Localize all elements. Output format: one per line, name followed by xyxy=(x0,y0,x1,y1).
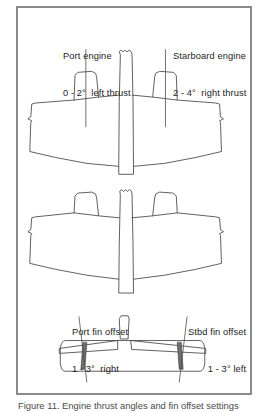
port-engine-nacelle-middle xyxy=(74,192,99,216)
callout-port-engine: Port engine 0 - 2° left thrust xyxy=(63,25,131,124)
callout-stbd-fin-title: Stbd fin offset xyxy=(188,326,246,338)
starboard-wing-outline-middle xyxy=(132,213,223,279)
callout-stbd-fin: Stbd fin offset 1 - 3° left xyxy=(188,301,246,400)
callout-starboard-engine-value: 2 - 4° right thrust xyxy=(173,87,246,99)
figure-frame: Port engine 0 - 2° left thrust Starboard… xyxy=(16,6,252,395)
callout-starboard-engine: Starboard engine 2 - 4° right thrust xyxy=(173,25,246,124)
callout-starboard-engine-title: Starboard engine xyxy=(173,50,246,62)
middle-planform-view xyxy=(28,190,224,293)
port-wing-outline-middle xyxy=(28,213,119,279)
callout-port-engine-title: Port engine xyxy=(63,50,131,62)
starboard-engine-nacelle-middle xyxy=(153,192,178,216)
callout-stbd-fin-value: 1 - 3° left xyxy=(188,363,246,375)
callout-port-fin-title: Port fin offset xyxy=(72,326,128,338)
fuselage-outline-middle xyxy=(119,190,134,293)
figure-caption: Figure 11. Engine thrust angles and fin … xyxy=(18,400,250,412)
callout-port-fin: Port fin offset 1 - 3° right xyxy=(72,301,128,400)
callout-port-fin-value: 1 - 3° right xyxy=(72,363,128,375)
callout-port-engine-value: 0 - 2° left thrust xyxy=(63,87,131,99)
